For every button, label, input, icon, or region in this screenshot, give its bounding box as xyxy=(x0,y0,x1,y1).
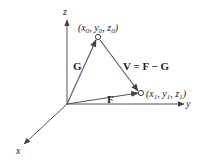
vector-g-label: G xyxy=(73,60,82,72)
vector-v-label: V = F − G xyxy=(123,60,170,72)
point-p0-marker xyxy=(95,34,100,39)
point-p1-marker xyxy=(138,90,143,95)
diagram-canvas: z y x (x0, y0, z0) (x1, y1, z1) G F V = … xyxy=(0,0,204,165)
point-p1-label: (x1, y1, z1) xyxy=(146,88,187,101)
point-p0-label: (x0, y0, z0) xyxy=(78,22,119,35)
y-axis-label: y xyxy=(185,98,191,109)
z-axis-label: z xyxy=(62,6,67,17)
vector-g xyxy=(67,40,96,104)
vector-f xyxy=(67,93,138,104)
vector-diagram: z y x (x0, y0, z0) (x1, y1, z1) G F V = … xyxy=(0,0,204,165)
x-axis xyxy=(24,104,67,144)
vector-f-label: F xyxy=(107,93,114,105)
x-axis-label: x xyxy=(15,145,21,156)
